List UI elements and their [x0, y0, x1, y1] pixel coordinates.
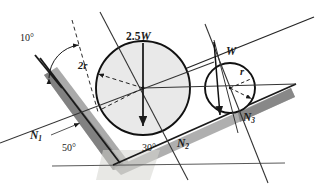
weight-large-symbol: W: [140, 30, 150, 42]
large-cylinder-center: [142, 87, 145, 90]
angle-30-label: 30°: [142, 143, 156, 153]
weight-large-value: 2.5: [126, 30, 140, 42]
ground-line: [52, 163, 285, 166]
angle-50-label: 50°: [62, 143, 76, 153]
weight-small-label: W: [226, 46, 236, 58]
force-n3-label: N3: [243, 112, 255, 125]
force-n1-subscript: 1: [38, 134, 42, 143]
radius-r-label: r: [240, 67, 244, 78]
force-n1-leader: [51, 123, 80, 135]
radius-2r-label: 2r: [78, 61, 87, 72]
small-cylinder-center: [229, 87, 231, 89]
force-n2-label: N2: [177, 138, 189, 151]
angle-10-label: 10°: [20, 33, 34, 43]
force-n2-subscript: 2: [185, 142, 189, 151]
statics-diagram: 10° 50° 30° N1 N2 N3 2.5W W 2r r: [0, 0, 316, 185]
force-n1-label: N1: [30, 130, 42, 143]
force-n3-subscript: 3: [251, 116, 255, 125]
weight-small-symbol: W: [226, 45, 236, 57]
weight-large-label: 2.5W: [126, 31, 151, 43]
diagram-canvas: [0, 0, 316, 185]
